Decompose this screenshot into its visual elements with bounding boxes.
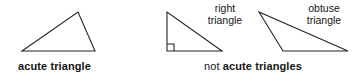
right-triangle-annotation-line2: triangle — [196, 14, 254, 26]
acute-triangle-caption: acute triangle — [18, 60, 91, 72]
triangle-classification-figure: right triangle obtuse triangle acute tri… — [0, 0, 363, 78]
not-acute-triangles-caption: not acute triangles — [204, 60, 302, 72]
right-angle-marker-icon — [167, 44, 174, 51]
right-triangle-annotation: right triangle — [196, 2, 254, 26]
caption-prefix: not — [204, 60, 223, 72]
acute-triangle-shape — [22, 12, 95, 51]
caption-strong: acute triangles — [223, 60, 302, 72]
obtuse-triangle-annotation: obtuse triangle — [294, 2, 354, 26]
obtuse-triangle-annotation-line2: triangle — [294, 14, 354, 26]
right-triangle-annotation-line1: right — [196, 2, 254, 14]
obtuse-triangle-annotation-line1: obtuse — [294, 2, 354, 14]
